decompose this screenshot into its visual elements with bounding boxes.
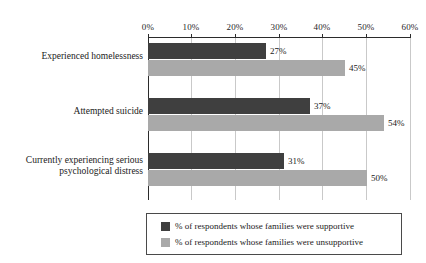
bar-value-unsupportive-psychological-distress: 50% bbox=[371, 173, 388, 183]
x-tick-label-10: 10% bbox=[182, 22, 199, 32]
x-tick-label-0: 0% bbox=[142, 22, 154, 32]
bar-supportive-attempted-suicide bbox=[148, 98, 310, 114]
category-label-attempted-suicide: Attempted suicide bbox=[10, 106, 143, 117]
bar-supportive-experienced-homelessness bbox=[148, 43, 266, 59]
bar-supportive-psychological-distress bbox=[148, 153, 284, 169]
bar-value-unsupportive-attempted-suicide: 54% bbox=[388, 118, 405, 128]
bar-unsupportive-experienced-homelessness bbox=[148, 60, 345, 76]
x-tick-label-20: 20% bbox=[226, 22, 243, 32]
x-tick-label-50: 50% bbox=[357, 22, 374, 32]
bar-unsupportive-attempted-suicide bbox=[148, 115, 384, 131]
legend-label-supportive: % of respondents whose families were sup… bbox=[175, 221, 354, 231]
legend-swatch-unsupportive-icon bbox=[161, 238, 170, 247]
category-label-experienced-homelessness: Experienced homelessness bbox=[10, 51, 143, 62]
category-label-psychological-distress: Currently experiencing serious psycholog… bbox=[5, 155, 143, 177]
legend: % of respondents whose families were sup… bbox=[146, 213, 402, 255]
legend-item-supportive: % of respondents whose families were sup… bbox=[161, 221, 354, 231]
legend-item-unsupportive: % of respondents whose families were uns… bbox=[161, 237, 363, 247]
bar-value-supportive-experienced-homelessness: 27% bbox=[270, 46, 287, 56]
x-tick-label-60: 60% bbox=[401, 22, 418, 32]
x-tick-label-30: 30% bbox=[270, 22, 287, 32]
x-tick-label-40: 40% bbox=[313, 22, 330, 32]
gridline-60 bbox=[410, 38, 411, 200]
bar-value-supportive-attempted-suicide: 37% bbox=[314, 101, 331, 111]
legend-label-unsupportive: % of respondents whose families were uns… bbox=[175, 237, 363, 247]
bar-unsupportive-psychological-distress bbox=[148, 170, 367, 186]
bar-value-supportive-psychological-distress: 31% bbox=[288, 156, 305, 166]
bar-chart: 0% 10% 20% 30% 40% 50% 60% Experienced h… bbox=[0, 0, 426, 263]
bar-value-unsupportive-experienced-homelessness: 45% bbox=[349, 63, 366, 73]
legend-swatch-supportive-icon bbox=[161, 222, 170, 231]
